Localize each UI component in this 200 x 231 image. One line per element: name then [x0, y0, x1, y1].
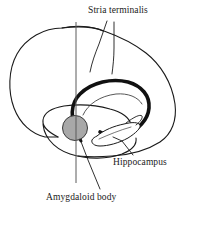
leader-stria-b [112, 22, 114, 74]
leader-amygdaloid [80, 139, 100, 189]
label-amygdaloid-body: Amygdaloid body [46, 192, 116, 203]
label-hippocampus: Hippocampus [113, 157, 167, 168]
anatomical-figure: Stria terminalis Hippocampus Amygdaloid … [0, 0, 200, 231]
label-stria-terminalis: Stria terminalis [88, 5, 148, 16]
amygdaloid-body [63, 116, 88, 141]
hippocampus-body [92, 123, 140, 146]
stria-inner-contour [83, 94, 142, 115]
cerebrum-outline [10, 27, 176, 157]
